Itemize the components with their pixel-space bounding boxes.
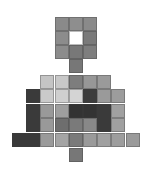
grid-cell <box>40 104 54 118</box>
grid-cell <box>26 133 40 147</box>
grid-cell <box>83 118 97 132</box>
grid-cell <box>69 118 83 132</box>
grid-cell <box>97 75 111 89</box>
grid-cell <box>55 45 69 59</box>
grid-cell <box>55 31 69 45</box>
grid-cell <box>55 17 69 31</box>
grid-cell <box>69 45 83 59</box>
grid-cell <box>26 104 40 118</box>
grid-cell <box>55 118 69 132</box>
grid-cell <box>69 31 83 45</box>
grid-cell <box>111 133 125 147</box>
grid-cell <box>97 104 111 118</box>
grid-cell <box>55 133 69 147</box>
grid-cell <box>83 133 97 147</box>
grid-cell <box>111 104 125 118</box>
grid-cell <box>97 133 111 147</box>
grid-cell <box>69 133 83 147</box>
grid-cell <box>83 31 97 45</box>
grid-cell <box>69 89 83 103</box>
grid-cell <box>55 89 69 103</box>
grid-cell <box>83 45 97 59</box>
grid-cell <box>40 75 54 89</box>
grid-cell <box>69 75 83 89</box>
grid-cell <box>55 104 69 118</box>
grid-cell <box>83 104 97 118</box>
grid-cell <box>83 17 97 31</box>
grid-cell <box>69 59 83 73</box>
grid-cell <box>97 89 111 103</box>
grid-cell <box>40 89 54 103</box>
grid-cell <box>69 17 83 31</box>
pixel-bell-figure <box>0 0 150 176</box>
grid-cell <box>69 104 83 118</box>
grid-cell <box>69 148 83 162</box>
grid-cell <box>111 118 125 132</box>
grid-cell <box>12 133 26 147</box>
grid-cell <box>26 89 40 103</box>
grid-cell <box>26 118 40 132</box>
grid-cell <box>97 118 111 132</box>
grid-cell <box>126 133 140 147</box>
grid-cell <box>55 75 69 89</box>
grid-cell <box>111 89 125 103</box>
grid-cell <box>40 118 54 132</box>
grid-cell <box>40 133 54 147</box>
grid-cell <box>83 89 97 103</box>
grid-cell <box>83 75 97 89</box>
